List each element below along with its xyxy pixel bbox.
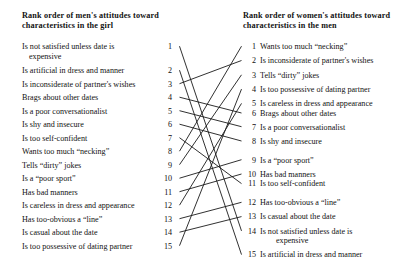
- right-heading-line2: characteristics in the men: [243, 21, 337, 30]
- item-label-text: Has too-obvious a “line”: [260, 198, 340, 207]
- connector-line: [180, 174, 242, 192]
- item-label-text: Tells “dirty” jokes: [22, 161, 81, 170]
- item-label-text: Brags about other dates: [260, 109, 336, 118]
- item-label: Is too possessive of dating partner: [260, 85, 370, 95]
- list-item[interactable]: 9Is a “poor sport”: [243, 156, 413, 166]
- list-item[interactable]: Is a poor conversationalist5: [22, 107, 172, 117]
- connector-line: [180, 138, 242, 184]
- list-item[interactable]: 10Has bad manners: [243, 170, 413, 180]
- item-label: Is a “poor sport”: [260, 156, 314, 166]
- item-label-continuation: expensive: [260, 236, 352, 246]
- item-label: Wants too much “necking”: [22, 147, 109, 157]
- item-label-text: Wants too much “necking”: [260, 42, 347, 51]
- item-label: Is shy and insecure: [260, 137, 322, 147]
- connector-line: [180, 75, 242, 165]
- item-label: Has too-obvious a “line”: [260, 198, 340, 208]
- list-item[interactable]: Has bad manners11: [22, 188, 172, 198]
- item-label: Is not satisfied unless date isexpensive: [22, 42, 114, 61]
- list-item[interactable]: 8Is shy and insecure: [243, 137, 413, 147]
- connector-line: [180, 97, 242, 113]
- list-item[interactable]: Is too self-confident7: [22, 134, 172, 144]
- list-item[interactable]: Is shy and insecure6: [22, 120, 172, 130]
- list-item[interactable]: 11Is too self-confident: [243, 179, 413, 189]
- list-item[interactable]: Is a “poor sport”10: [22, 174, 172, 184]
- item-label: Is too self-confident: [260, 179, 325, 189]
- item-label-text: Is artificial in dress and manner: [260, 250, 362, 259]
- rank-number: 11: [155, 188, 172, 198]
- item-label-text: Is artificial in dress and manner: [22, 66, 124, 75]
- rank-number: 2: [243, 56, 256, 66]
- rank-number: 9: [243, 156, 256, 166]
- list-item[interactable]: Tells “dirty” jokes9: [22, 161, 172, 171]
- item-label: Tells “dirty” jokes: [260, 71, 319, 81]
- left-column-heading: Rank order of men's attitudes toward cha…: [22, 11, 174, 31]
- list-item[interactable]: Brags about other dates4: [22, 93, 172, 103]
- item-label-text: Is too self-confident: [260, 179, 325, 188]
- item-label-text: Is inconsiderate of partner's wishes: [22, 80, 135, 89]
- item-label: Is too self-confident: [22, 134, 87, 144]
- rank-number: 15: [155, 242, 172, 252]
- rank-number: 15: [243, 250, 256, 260]
- list-item[interactable]: Is artificial in dress and manner2: [22, 66, 172, 76]
- rank-number: 10: [155, 174, 172, 184]
- list-item[interactable]: 4Is too possessive of dating partner: [243, 85, 413, 95]
- rank-number: 14: [155, 228, 172, 238]
- list-item[interactable]: 14Is not satisfied unless date isexpensi…: [243, 227, 413, 246]
- item-label: Tells “dirty” jokes: [22, 161, 81, 171]
- connector-line: [180, 202, 242, 218]
- rank-order-linked-diagram: Rank order of men's attitudes toward cha…: [0, 0, 413, 278]
- list-item[interactable]: 1Wants too much “necking”: [243, 42, 413, 52]
- item-label-text: Brags about other dates: [22, 93, 98, 102]
- rank-number: 6: [155, 120, 172, 130]
- list-item[interactable]: 13Is casual about the date: [243, 212, 413, 222]
- item-label-text: Is shy and insecure: [260, 137, 322, 146]
- list-item[interactable]: Is careless in dress and appearance12: [22, 201, 172, 211]
- item-label: Brags about other dates: [22, 93, 98, 103]
- right-heading-line1: Rank order of women's attitudes toward: [243, 11, 390, 20]
- item-label-text: Has bad manners: [22, 188, 78, 197]
- item-label-text: Is careless in dress and appearance: [260, 99, 373, 108]
- rank-number: 6: [243, 109, 256, 119]
- rank-number: 10: [243, 170, 256, 180]
- connector-line: [180, 124, 242, 141]
- list-item[interactable]: 6Brags about other dates: [243, 109, 413, 119]
- list-item[interactable]: 2Is inconsiderate of partner's wishes: [243, 56, 413, 66]
- item-label-text: Has too-obvious a “line”: [22, 215, 102, 224]
- rank-number: 12: [243, 198, 256, 208]
- item-label: Has too-obvious a “line”: [22, 215, 102, 225]
- list-item[interactable]: Wants too much “necking”8: [22, 147, 172, 157]
- item-label: Is a poor conversationalist: [22, 107, 107, 117]
- item-label: Brags about other dates: [260, 109, 336, 119]
- rank-number: 7: [155, 134, 172, 144]
- item-label-text: Is a poor conversationalist: [22, 107, 107, 116]
- list-item[interactable]: Has too-obvious a “line”13: [22, 215, 172, 225]
- item-label: Is too possessive of dating partner: [22, 242, 132, 252]
- list-item[interactable]: 5Is careless in dress and appearance: [243, 99, 413, 109]
- item-label-text: Is not satisfied unless date is: [22, 42, 114, 51]
- item-label: Is artificial in dress and manner: [260, 250, 362, 260]
- list-item[interactable]: Is casual about the date14: [22, 228, 172, 238]
- list-item[interactable]: 3Tells “dirty” jokes: [243, 71, 413, 81]
- item-label-text: Is a poor conversationalist: [260, 123, 345, 132]
- list-item[interactable]: Is too possessive of dating partner15: [22, 242, 172, 252]
- right-column-heading: Rank order of women's attitudes toward c…: [243, 11, 411, 31]
- item-label-text: Is inconsiderate of partner's wishes: [260, 56, 373, 65]
- item-label: Is inconsiderate of partner's wishes: [260, 56, 373, 66]
- item-label-text: Is a “poor sport”: [22, 174, 76, 183]
- list-item[interactable]: 7Is a poor conversationalist: [243, 123, 413, 133]
- rank-number: 8: [155, 147, 172, 157]
- list-item[interactable]: 15Is artificial in dress and manner: [243, 250, 413, 260]
- connector-line: [180, 160, 242, 179]
- list-item[interactable]: Is inconsiderate of partner's wishes3: [22, 80, 172, 90]
- item-label: Wants too much “necking”: [260, 42, 347, 52]
- connector-line: [180, 111, 242, 127]
- rank-number: 13: [243, 212, 256, 222]
- item-label-text: Tells “dirty” jokes: [260, 71, 319, 80]
- connector-line: [180, 46, 242, 151]
- list-item[interactable]: 12Has too-obvious a “line”: [243, 198, 413, 208]
- rank-number: 1: [243, 42, 256, 52]
- item-label-continuation: expensive: [22, 52, 114, 62]
- item-label: Is a “poor sport”: [22, 174, 76, 184]
- rank-number: 2: [155, 66, 172, 76]
- list-item[interactable]: Is not satisfied unless date isexpensive…: [22, 42, 172, 61]
